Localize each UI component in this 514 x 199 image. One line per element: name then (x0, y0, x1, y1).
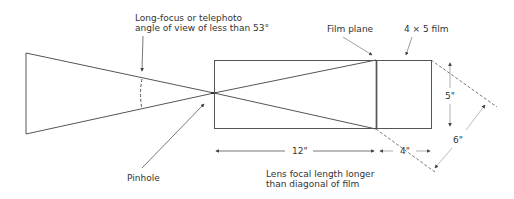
focal-note-line2: than diagonal of film (266, 179, 359, 189)
film-box (377, 61, 432, 129)
film-size-label-arrow (406, 37, 412, 55)
film-plane-label-arrow (343, 37, 372, 55)
film-plane-label: Film plane (327, 24, 373, 34)
angle-of-view-arc (141, 79, 143, 109)
focal-note-line1: Lens focal length longer (266, 169, 374, 179)
light-rays (214, 60, 376, 129)
film-height-dimension-label: 5" (445, 91, 455, 101)
focal-length-note: Lens focal length longer than diagonal o… (266, 169, 374, 189)
film-size-label: 4 × 5 film (404, 24, 449, 34)
field-of-view-cone (26, 53, 214, 134)
film-width-dimension-label: 4" (400, 146, 410, 156)
angle-note-line2: angle of view of less than 53° (135, 23, 269, 33)
angle-note-line1: Long-focus or telephoto (135, 13, 242, 23)
film-diagonal-dimension-label: 6" (453, 135, 463, 145)
angle-of-view-note: Long-focus or telephoto angle of view of… (135, 13, 269, 33)
diagonal-projection-lines (376, 60, 497, 172)
angle-label-arrow (142, 36, 143, 71)
pinhole-label-arrow (142, 104, 204, 168)
focal-length-dimension-label: 12" (292, 146, 308, 156)
camera-body (215, 61, 377, 129)
pinhole-label: Pinhole (127, 173, 160, 183)
